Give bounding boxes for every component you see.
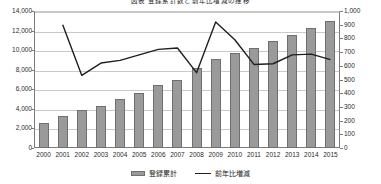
- legend-item-label: 前年比増減: [215, 169, 250, 178]
- y-axis-right-tick-label: 100: [344, 130, 355, 137]
- y-axis-left-tick-label: 4,000: [16, 105, 32, 112]
- y-axis-right-tick-label: 0: [344, 144, 348, 151]
- x-axis-labels: 2000200120022003200420052006200720082009…: [34, 150, 340, 160]
- y-axis-right-tick-label: 800: [344, 34, 355, 41]
- y-axis-right-tick-label: 700: [344, 48, 355, 55]
- y-axis-right-tick-label: 200: [344, 117, 355, 124]
- y-axis-left-tick-label: 12,000: [12, 27, 32, 34]
- y-axis-right-tick-mark: [340, 80, 343, 81]
- x-axis-tick-label: 2006: [151, 150, 165, 159]
- y-axis-right-tick-mark: [340, 148, 343, 149]
- y-axis-right-tick-mark: [340, 107, 343, 108]
- y-axis-left-tick-mark: [31, 148, 34, 149]
- y-axis-right-tick-label: 400: [344, 89, 355, 96]
- x-axis-tick-label: 2009: [208, 150, 222, 159]
- y-axis-left-tick-label: 2,000: [16, 124, 32, 131]
- y-axis-right-tick-mark: [340, 93, 343, 94]
- x-axis-tick-label: 2012: [266, 150, 280, 159]
- y-axis-right-tick-label: 600: [344, 62, 355, 69]
- legend-line-swatch-icon: [195, 173, 211, 174]
- x-axis-tick-label: 2000: [36, 150, 50, 159]
- x-axis-tick-label: 2010: [228, 150, 242, 159]
- x-axis-tick-label: 2005: [132, 150, 146, 159]
- chart-legend: 登録累計前年比増減: [0, 169, 381, 178]
- y-axis-right-tick-mark: [340, 66, 343, 67]
- legend-bar-swatch-icon: [131, 171, 145, 176]
- x-axis-tick-label: 2013: [285, 150, 299, 159]
- y-axis-right-tick-mark: [340, 25, 343, 26]
- legend-item-label: 登録累計: [149, 169, 177, 178]
- y-axis-right-tick-mark: [340, 52, 343, 53]
- chart-title: 図表 登録累計数と前年比増減の推移: [0, 0, 381, 5]
- line-series-yoy-change: [34, 11, 340, 148]
- y-axis-left-tick-label: 14,000: [12, 7, 32, 14]
- line-path: [63, 22, 331, 75]
- x-axis-tick-label: 2003: [94, 150, 108, 159]
- y-axis-left-tick-label: 10,000: [12, 46, 32, 53]
- chart-figure: 図表 登録累計数と前年比増減の推移 02,0004,0006,0008,0001…: [0, 0, 381, 184]
- y-axis-right-tick-mark: [340, 121, 343, 122]
- y-axis-left-tick-label: 8,000: [16, 66, 32, 73]
- legend-item[interactable]: 登録累計: [131, 169, 177, 178]
- y-axis-right-tick-mark: [340, 11, 343, 12]
- x-axis-tick-label: 2011: [247, 150, 261, 159]
- x-axis-tick-label: 2014: [304, 150, 318, 159]
- x-axis-tick-label: 2004: [113, 150, 127, 159]
- x-axis-tick-label: 2007: [170, 150, 184, 159]
- y-axis-right-tick-label: 1,000: [344, 7, 360, 14]
- x-axis-tick-label: 2008: [189, 150, 203, 159]
- x-axis-tick-label: 2015: [323, 150, 337, 159]
- x-axis-tick-label: 2002: [75, 150, 89, 159]
- y-axis-right-tick-mark: [340, 134, 343, 135]
- legend-item[interactable]: 前年比増減: [195, 169, 250, 178]
- x-axis-tick-label: 2001: [55, 150, 69, 159]
- y-axis-right-tick-mark: [340, 38, 343, 39]
- y-axis-left-tick-label: 6,000: [16, 85, 32, 92]
- y-axis-right-tick-label: 900: [344, 21, 355, 28]
- y-axis-right-tick-label: 500: [344, 76, 355, 83]
- y-axis-right-tick-label: 300: [344, 103, 355, 110]
